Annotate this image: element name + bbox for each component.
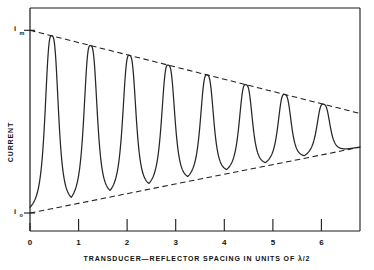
x-tick-label-1: 1 xyxy=(76,238,81,247)
chart-background xyxy=(0,0,374,270)
x-tick-label-4: 4 xyxy=(222,238,227,247)
y-label-max: i xyxy=(14,24,16,33)
y-axis-title: CURRENT xyxy=(7,122,14,163)
resonance-current-chart: 0 1 2 3 4 5 6 i m i o CURRENT TRANSDUCER… xyxy=(0,0,374,270)
x-tick-label-5: 5 xyxy=(271,238,276,247)
x-tick-label-0: 0 xyxy=(28,238,33,247)
y-label-max-subscript: m xyxy=(20,30,25,36)
x-tick-label-6: 6 xyxy=(319,238,324,247)
x-axis-title: TRANSDUCER—REFLECTOR SPACING IN UNITS OF… xyxy=(84,255,311,262)
y-label-min: i xyxy=(14,207,16,216)
x-tick-label-2: 2 xyxy=(125,238,130,247)
x-tick-label-3: 3 xyxy=(173,238,178,247)
